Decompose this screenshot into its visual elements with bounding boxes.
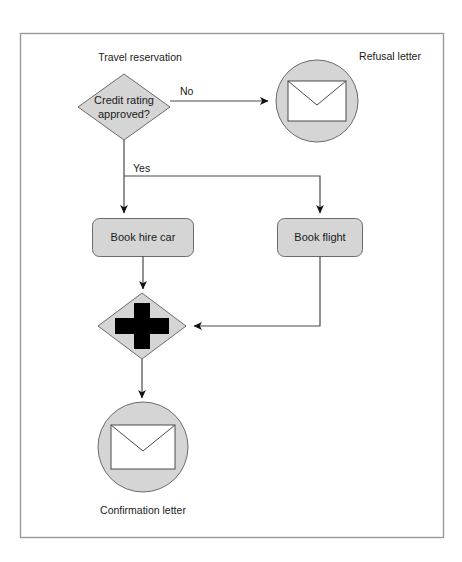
- book-flight-label: Book flight: [294, 231, 345, 243]
- envelope-icon-confirmation: [111, 425, 175, 469]
- task-node-book-hire-car[interactable]: Book hire car: [93, 219, 194, 257]
- flowchart-canvas: Travel reservation Credit rating approve…: [0, 0, 462, 562]
- plus-icon-horizontal-bar: [115, 318, 169, 334]
- confirmation-letter-label: Confirmation letter: [100, 504, 186, 516]
- decision-label-line2: approved?: [98, 108, 150, 120]
- envelope-icon-refusal: [288, 81, 346, 121]
- refusal-letter-label: Refusal letter: [359, 50, 421, 62]
- edge-label-no: No: [180, 85, 194, 97]
- start-event-label: Travel reservation: [98, 51, 182, 63]
- flowchart-svg: Travel reservation Credit rating approve…: [0, 0, 462, 562]
- edge-label-yes: Yes: [133, 162, 150, 174]
- task-node-book-flight[interactable]: Book flight: [278, 219, 363, 257]
- decision-label-line1: Credit rating: [94, 94, 154, 106]
- book-hire-car-label: Book hire car: [111, 231, 176, 243]
